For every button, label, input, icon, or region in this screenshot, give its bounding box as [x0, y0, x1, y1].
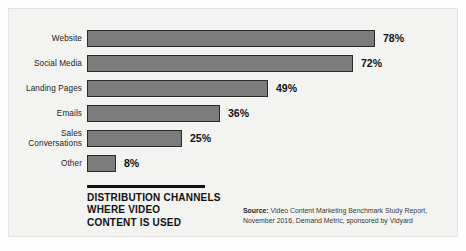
bar-other	[87, 155, 116, 172]
chart-title-line-3: CONTENT IS USED	[87, 217, 257, 229]
category-label: Sales Conversations	[10, 126, 82, 151]
chart-figure: Website 78% Social Media 72% Landing Pag…	[0, 0, 466, 251]
bar-landing-pages	[87, 80, 268, 97]
chart-row: Sales Conversations 25%	[0, 126, 466, 151]
chart-row: Social Media 72%	[0, 51, 466, 76]
bar-website	[87, 30, 375, 47]
chart-title-line-2: WHERE VIDEO	[87, 204, 257, 216]
category-label: Other	[10, 151, 82, 176]
chart-title: DISTRIBUTION CHANNELS WHERE VIDEO CONTEN…	[87, 192, 257, 229]
category-label: Website	[10, 26, 82, 51]
category-label-line: Sales	[61, 129, 82, 139]
category-label: Emails	[10, 101, 82, 126]
category-label: Social Media	[10, 51, 82, 76]
value-label-other: 8%	[124, 155, 139, 172]
value-label-sales-conversations: 25%	[190, 130, 211, 147]
bar-track	[87, 105, 220, 122]
category-label-line: Emails	[57, 109, 82, 119]
bar-track	[87, 55, 353, 72]
bar-track	[87, 155, 116, 172]
category-label-line: Social Media	[34, 59, 82, 69]
value-label-social-media: 72%	[361, 55, 382, 72]
category-label-line: Landing Pages	[26, 84, 82, 94]
bar-sales-conversations	[87, 130, 182, 147]
source-note: Source: Video Content Marketing Benchmar…	[243, 206, 451, 225]
bar-track	[87, 80, 268, 97]
value-label-website: 78%	[383, 30, 404, 47]
chart-row: Other 8%	[0, 151, 466, 176]
value-label-emails: 36%	[228, 105, 249, 122]
bar-track	[87, 130, 182, 147]
category-label: Landing Pages	[10, 76, 82, 101]
value-label-landing-pages: 49%	[276, 80, 297, 97]
chart-row: Emails 36%	[0, 101, 466, 126]
source-prefix: Source:	[243, 207, 269, 214]
bar-chart-plot-area: Website 78% Social Media 72% Landing Pag…	[0, 0, 466, 251]
chart-row: Landing Pages 49%	[0, 76, 466, 101]
bar-social-media	[87, 55, 353, 72]
category-label-line: Website	[52, 34, 82, 44]
category-label-line: Conversations	[28, 139, 82, 149]
bar-track	[87, 30, 375, 47]
chart-row: Website 78%	[0, 26, 466, 51]
chart-title-line-1: DISTRIBUTION CHANNELS	[87, 192, 257, 204]
source-text: Video Content Marketing Benchmark Study …	[243, 207, 427, 224]
title-rule-divider	[87, 185, 205, 188]
bar-emails	[87, 105, 220, 122]
category-label-line: Other	[61, 159, 82, 169]
